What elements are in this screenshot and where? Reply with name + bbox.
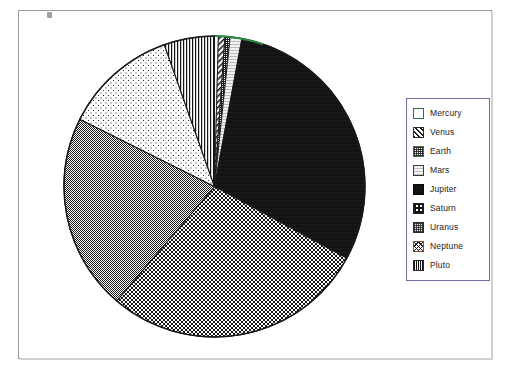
earth-swatch-icon (413, 146, 424, 157)
legend-item-neptune[interactable]: Neptune (407, 237, 489, 256)
pluto-swatch-icon (413, 260, 424, 271)
legend-label-earth: Earth (430, 147, 451, 156)
legend-label-pluto: Pluto (430, 261, 450, 270)
venus-swatch-icon (413, 127, 424, 138)
legend-label-jupiter: Jupiter (430, 185, 457, 194)
mercury-swatch-icon (413, 108, 424, 119)
legend-item-earth[interactable]: Earth (407, 142, 489, 161)
scan-artifact-speck (47, 12, 52, 18)
legend-label-mercury: Mercury (430, 109, 462, 118)
jupiter-swatch-icon (413, 184, 424, 195)
legend-item-mercury[interactable]: Mercury (407, 104, 489, 123)
pie-chart (63, 35, 366, 338)
document-frame: Mercury Venus Earth Mars Jupiter Saturn … (18, 10, 492, 359)
chart-legend: Mercury Venus Earth Mars Jupiter Saturn … (406, 98, 490, 281)
legend-label-mars: Mars (430, 166, 450, 175)
mars-swatch-icon (413, 165, 424, 176)
legend-label-venus: Venus (430, 128, 454, 137)
legend-label-uranus: Uranus (430, 223, 458, 232)
legend-item-uranus[interactable]: Uranus (407, 218, 489, 237)
pie-chart-svg (63, 35, 366, 338)
neptune-swatch-icon (413, 241, 424, 252)
legend-item-pluto[interactable]: Pluto (407, 256, 489, 275)
legend-label-saturn: Saturn (430, 204, 456, 213)
legend-item-venus[interactable]: Venus (407, 123, 489, 142)
saturn-swatch-icon (413, 203, 424, 214)
legend-item-saturn[interactable]: Saturn (407, 199, 489, 218)
legend-item-jupiter[interactable]: Jupiter (407, 180, 489, 199)
uranus-swatch-icon (413, 222, 424, 233)
legend-label-neptune: Neptune (430, 242, 463, 251)
legend-item-mars[interactable]: Mars (407, 161, 489, 180)
